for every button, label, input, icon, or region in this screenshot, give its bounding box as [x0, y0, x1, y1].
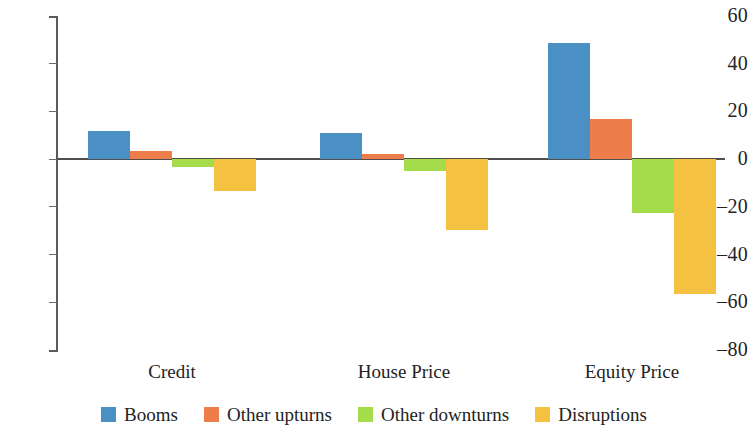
bar [130, 151, 172, 159]
legend-item[interactable]: Disruptions [535, 404, 647, 425]
legend-item[interactable]: Booms [101, 404, 178, 425]
chart-legend: BoomsOther upturnsOther downturnsDisrupt… [0, 404, 748, 425]
legend-label: Booms [124, 404, 178, 425]
bar [446, 159, 488, 229]
bar [632, 159, 674, 213]
legend-item[interactable]: Other downturns [358, 404, 509, 425]
bar [362, 154, 404, 159]
bar [172, 159, 214, 167]
bar [214, 159, 256, 191]
legend-label: Other upturns [227, 404, 332, 425]
bar [674, 159, 716, 294]
bar [88, 131, 130, 159]
legend-label: Other downturns [381, 404, 509, 425]
legend-item[interactable]: Other upturns [204, 404, 332, 425]
bar [548, 43, 590, 159]
legend-swatch-icon [204, 407, 219, 422]
plot-area [57, 16, 725, 350]
bar [404, 159, 446, 171]
x-axis-category-label: Credit [72, 361, 272, 383]
legend-swatch-icon [358, 407, 373, 422]
legend-label: Disruptions [558, 404, 647, 425]
x-axis-category-label: Equity Price [532, 361, 732, 383]
bar [590, 119, 632, 160]
legend-swatch-icon [101, 407, 116, 422]
bar-chart: 6040200–20–40–60–80 CreditHouse PriceEqu… [0, 0, 748, 441]
legend-swatch-icon [535, 407, 550, 422]
x-axis-category-label: House Price [304, 361, 504, 383]
bar [320, 133, 362, 159]
